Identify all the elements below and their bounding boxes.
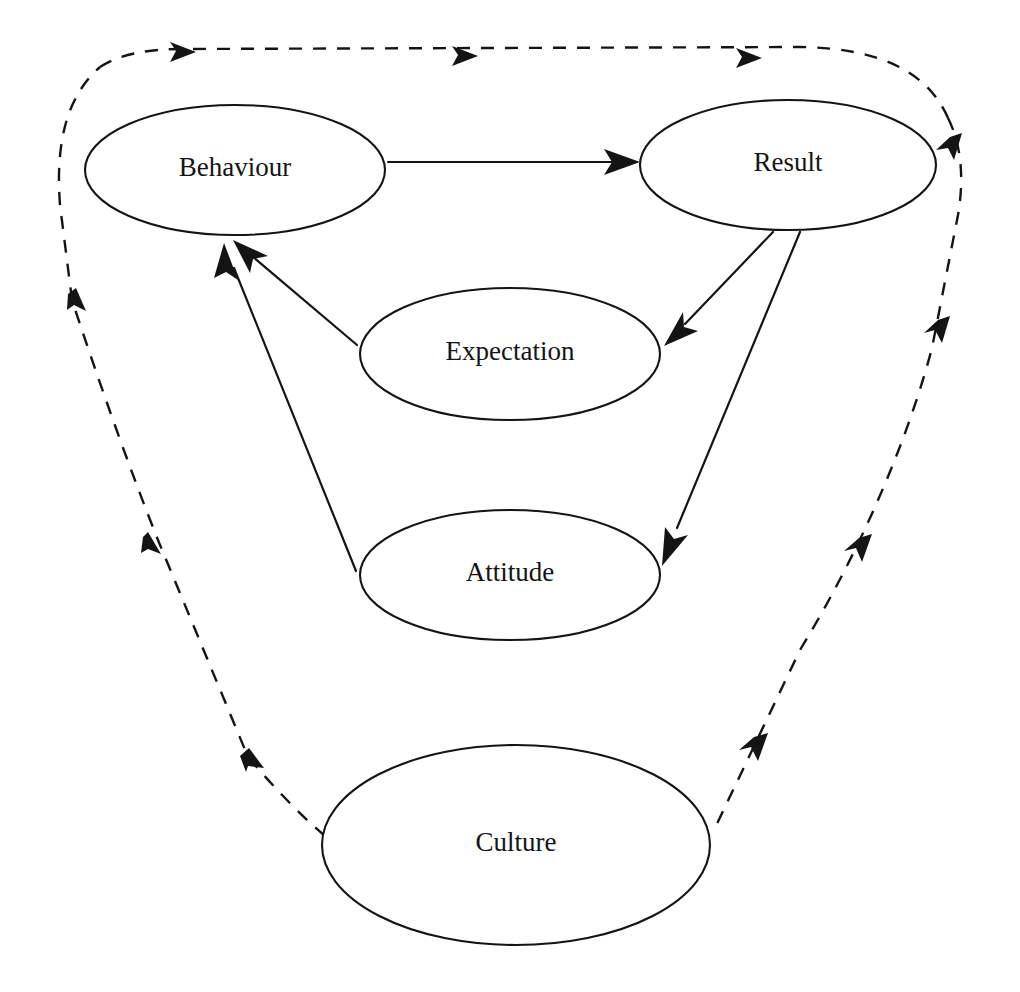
result-label: Result: [753, 147, 823, 177]
edge-result-to-attitude: [662, 232, 800, 566]
node-behaviour[interactable]: Behaviour: [85, 105, 385, 235]
arrowhead-attitude-to-behaviour: [214, 243, 238, 280]
arrowhead-culture-left: [240, 748, 264, 772]
arrowhead-expectation-to-behaviour: [233, 240, 268, 273]
arrowhead-right-upper: [924, 316, 950, 343]
arrowhead-top-right: [736, 48, 762, 68]
edge-expectation-to-behaviour: [233, 240, 357, 345]
arrowhead-result-to-attitude: [662, 527, 688, 566]
arrowhead-culture-right: [739, 733, 768, 761]
result-to-expectation-line: [685, 232, 773, 324]
arrowhead-right-lower: [844, 534, 872, 562]
edge-attitude-to-behaviour: [214, 243, 356, 571]
diagram-svg: Behaviour Result Expectation Attitude Cu…: [0, 0, 1020, 992]
attitude-label: Attitude: [466, 557, 555, 587]
diagram-canvas: Behaviour Result Expectation Attitude Cu…: [0, 0, 1020, 992]
culture-label: Culture: [476, 827, 557, 857]
arrowhead-top-left: [170, 42, 196, 62]
node-attitude[interactable]: Attitude: [360, 510, 660, 640]
node-result[interactable]: Result: [640, 100, 936, 230]
expectation-to-behaviour-line: [252, 256, 357, 345]
node-culture[interactable]: Culture: [322, 745, 710, 945]
attitude-to-behaviour-line: [234, 268, 356, 571]
result-to-attitude-line: [677, 232, 800, 528]
edge-result-to-expectation: [664, 232, 773, 346]
expectation-label: Expectation: [446, 336, 575, 366]
node-expectation[interactable]: Expectation: [360, 288, 660, 420]
edge-behaviour-to-result: [388, 149, 640, 175]
behaviour-label: Behaviour: [179, 152, 291, 182]
